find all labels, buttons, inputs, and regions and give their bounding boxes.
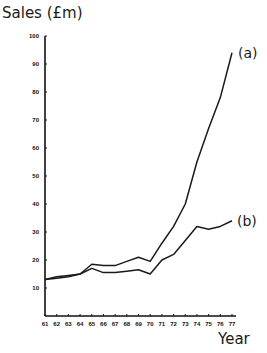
x-tick-label: 72 bbox=[170, 321, 177, 327]
x-tick-label: 71 bbox=[159, 321, 166, 327]
y-tick-label: 100 bbox=[29, 33, 40, 39]
x-tick-label: 75 bbox=[205, 321, 212, 327]
series-a-label: (a) bbox=[238, 45, 258, 61]
y-tick-label: 80 bbox=[32, 89, 39, 95]
y-tick-label: 40 bbox=[32, 201, 39, 207]
x-tick-label: 70 bbox=[147, 321, 154, 327]
series-b-label: (b) bbox=[237, 213, 257, 229]
x-tick-label: 69 bbox=[135, 321, 142, 327]
x-tick-label: 73 bbox=[182, 321, 189, 327]
x-tick-label: 68 bbox=[123, 321, 130, 327]
x-tick-label: 63 bbox=[65, 321, 72, 327]
y-tick-label: 20 bbox=[32, 257, 39, 263]
series-line-b bbox=[45, 221, 232, 280]
line-chart: 1020304050607080901006162636465666768697… bbox=[0, 0, 267, 353]
x-tick-label: 62 bbox=[53, 321, 60, 327]
y-tick-label: 60 bbox=[32, 145, 39, 151]
x-tick-label: 77 bbox=[229, 321, 236, 327]
y-tick-label: 30 bbox=[32, 229, 39, 235]
y-tick-label: 70 bbox=[32, 117, 39, 123]
x-tick-label: 61 bbox=[42, 321, 49, 327]
y-tick-label: 50 bbox=[32, 173, 39, 179]
x-tick-label: 65 bbox=[88, 321, 95, 327]
x-tick-label: 67 bbox=[112, 321, 119, 327]
x-tick-label: 66 bbox=[100, 321, 107, 327]
series-line-a bbox=[45, 53, 232, 280]
series-lines bbox=[45, 53, 232, 280]
x-tick-label: 64 bbox=[77, 321, 84, 327]
x-tick-label: 74 bbox=[194, 321, 201, 327]
y-tick-label: 90 bbox=[32, 61, 39, 67]
y-tick-label: 10 bbox=[32, 285, 39, 291]
axes: 1020304050607080901006162636465666768697… bbox=[29, 33, 236, 327]
x-tick-label: 76 bbox=[217, 321, 224, 327]
